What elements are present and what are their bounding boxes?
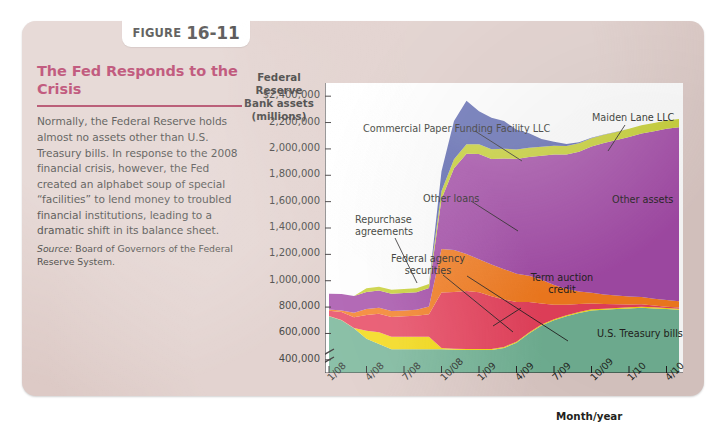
y-tick-label: 1,800,000 [246, 168, 320, 179]
y-tick-label: 1,600,000 [246, 195, 320, 206]
annotation-us-treasury-bills: U.S. Treasury bills [597, 328, 683, 340]
figure-label: FIGURE [132, 26, 181, 40]
annotation-other-loans: Other loans [423, 193, 479, 205]
plot-area: Commercial Paper Funding Facility LLC Ma… [325, 83, 683, 373]
source-label: Source: [37, 243, 72, 254]
figure-caption: The Fed Responds to the Crisis Normally,… [37, 63, 242, 269]
figure-body-text: Normally, the Federal Reserve holds almo… [37, 114, 242, 239]
y-tick-label: 400,000 [246, 353, 320, 364]
y-tick-label: 600,000 [246, 326, 320, 337]
annotation-term-auction-credit: Term auction credit [521, 272, 603, 296]
y-tick-label: 1,200,000 [246, 247, 320, 258]
y-tick-label: 800,000 [246, 300, 320, 311]
y-tick-label: 1,000,000 [246, 274, 320, 285]
y-axis-tick-labels: $2,400,0002,200,0002,000,0001,800,0001,6… [240, 83, 320, 373]
y-tick-label: 1,400,000 [246, 221, 320, 232]
y-tick-label: 2,200,000 [246, 116, 320, 127]
figure-number-tab: FIGURE 16-11 [122, 19, 250, 47]
annotation-maiden-lane: Maiden Lane LLC [592, 112, 674, 124]
y-tick-label: $2,400,000 [246, 89, 320, 100]
annotation-federal-agency-securities: Federal agency securities [387, 253, 469, 277]
figure-card: FIGURE 16-11 The Fed Responds to the Cri… [22, 21, 704, 396]
figure-title: The Fed Responds to the Crisis [37, 63, 242, 98]
chart-block: Federal Reserve Bank assets (millions) $… [240, 55, 692, 385]
x-axis-title: Month/year [556, 410, 622, 422]
figure-number: 16-11 [186, 23, 239, 43]
annotation-other-assets: Other assets [612, 194, 673, 206]
figure-source: Source: Board of Governors of the Federa… [37, 243, 242, 269]
annotation-cpff: Commercial Paper Funding Facility LLC [363, 123, 550, 135]
annotation-repurchase-agreements: Repurchase agreements [355, 214, 439, 238]
x-axis-tick-labels: 1/084/087/0810/081/094/097/0910/091/104/… [325, 373, 685, 407]
y-tick-label: 2,000,000 [246, 142, 320, 153]
title-divider [37, 105, 242, 107]
